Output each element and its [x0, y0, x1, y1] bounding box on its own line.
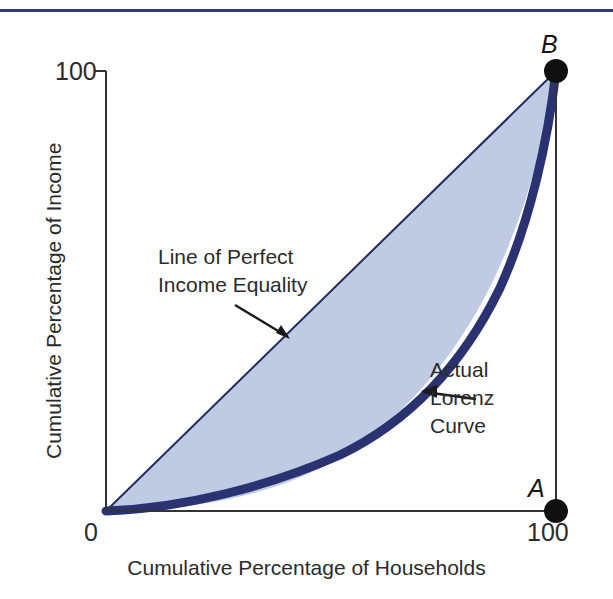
lorenz-annotation-line-1: Actual: [430, 356, 494, 384]
x-axis-tick-label-100: 100: [527, 518, 569, 547]
lorenz-curve-annotation: Actual Lorenz Curve: [430, 356, 494, 440]
lorenz-annotation-line-2: Lorenz: [430, 384, 494, 412]
plot-canvas: [0, 0, 613, 599]
x-axis-title: Cumulative Percentage of Households: [0, 556, 613, 580]
lorenz-curve-figure: 100 0 100 Cumulative Percentage of House…: [0, 0, 613, 599]
point-b-marker: [544, 59, 568, 83]
equality-annotation-arrow: [235, 305, 290, 339]
equality-annotation-line-1: Line of Perfect: [158, 243, 307, 271]
point-a-label: A: [528, 474, 545, 503]
equality-line-annotation: Line of Perfect Income Equality: [158, 243, 307, 299]
point-b-label: B: [541, 30, 558, 59]
x-axis-tick-label-0: 0: [84, 518, 98, 547]
y-axis-title: Cumulative Percentage of Income: [42, 143, 66, 459]
equality-annotation-line-2: Income Equality: [158, 271, 307, 299]
lorenz-annotation-line-3: Curve: [430, 412, 494, 440]
y-axis-tick-label-100: 100: [55, 57, 97, 86]
